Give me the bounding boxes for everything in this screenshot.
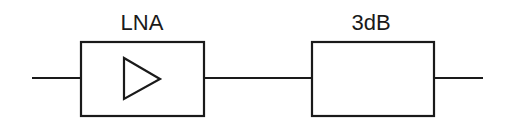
amplifier-triangle-icon bbox=[124, 58, 160, 99]
block-diagram bbox=[0, 0, 507, 124]
attenuator-label: 3dB bbox=[321, 12, 421, 34]
attenuator-block bbox=[312, 42, 434, 116]
lna-block bbox=[81, 42, 204, 116]
lna-label: LNA bbox=[92, 12, 192, 34]
